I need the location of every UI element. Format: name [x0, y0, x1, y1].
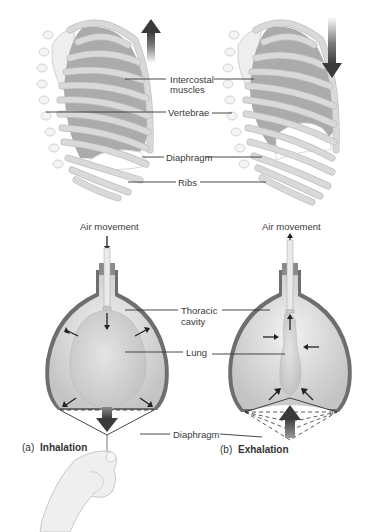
label-diaphragm-top: Diaphragm	[166, 152, 213, 163]
bell-jar-inhalation: Air movement	[45, 221, 169, 453]
tube-right	[287, 240, 293, 310]
label-lung: Lung	[186, 347, 207, 358]
ribcage-exhalation	[223, 23, 336, 202]
caption-a-prefix: (a)	[22, 442, 34, 453]
label-intercostal-muscles-line2: muscles	[170, 84, 205, 95]
bell-jar-exhalation: Air movement	[228, 221, 352, 440]
caption-b-prefix: (b)	[220, 444, 232, 455]
svg-text:(a) Inhalation: (a) Inhalation	[22, 442, 87, 453]
label-air-movement-right: Air movement	[262, 221, 321, 232]
label-air-movement-left: Air movement	[80, 221, 139, 232]
caption-b-title: Exhalation	[238, 444, 289, 455]
ribcage-inhalation	[37, 23, 150, 198]
caption-inhalation: (a) Inhalation	[22, 442, 87, 453]
breathing-mechanics-diagram: Intercostal muscles Vertebrae Diaphragm …	[0, 0, 373, 532]
tube-left	[104, 248, 110, 306]
label-vertebrae: Vertebrae	[168, 107, 209, 118]
caption-a-title: Inhalation	[40, 442, 87, 453]
hand-pulling-diaphragm	[40, 451, 117, 532]
label-diaphragm-bottom: Diaphragm	[173, 429, 220, 440]
label-ribs: Ribs	[178, 177, 197, 188]
label-thoracic-cavity: Thoracic	[181, 305, 218, 316]
label-thoracic-cavity-line2: cavity	[181, 316, 206, 327]
caption-exhalation: (b) Exhalation	[220, 444, 289, 455]
svg-text:(b) Exhalation: (b) Exhalation	[220, 444, 289, 455]
